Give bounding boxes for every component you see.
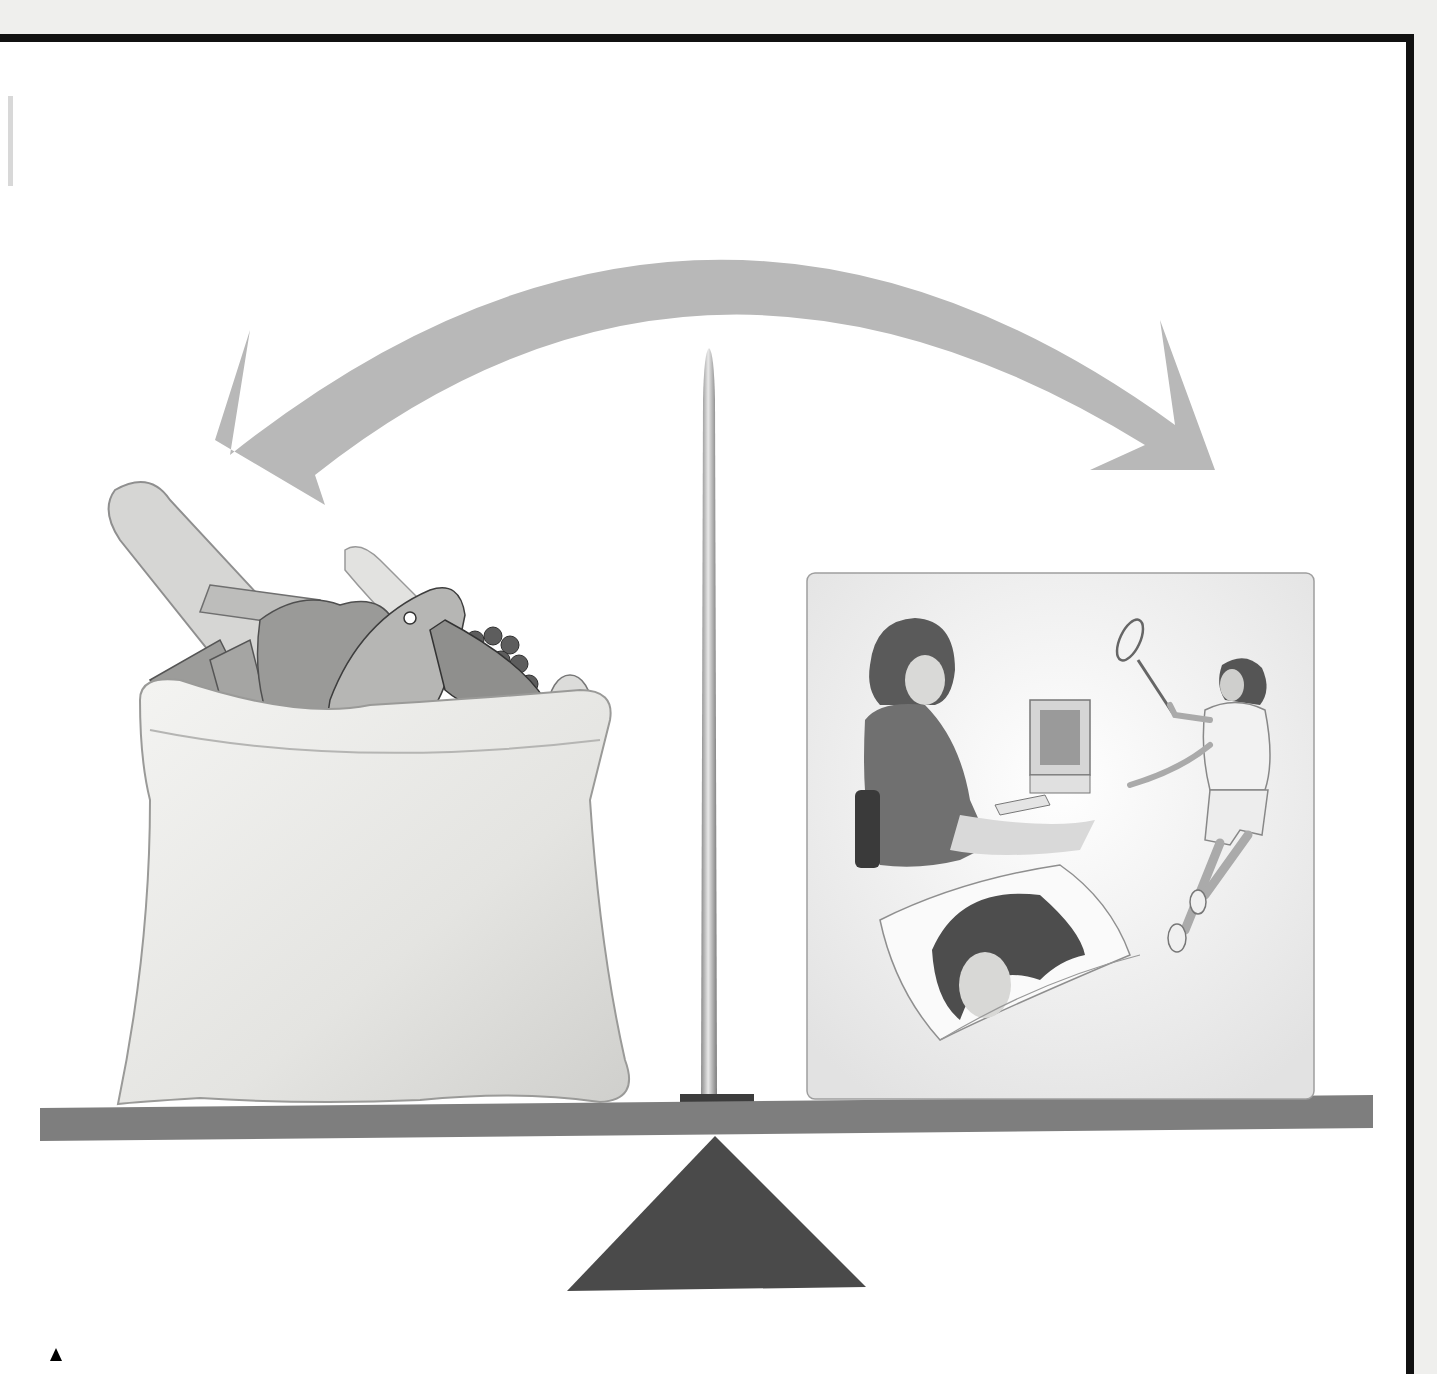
food-sack: [109, 482, 630, 1104]
footer-triangle-marker: [50, 1348, 62, 1361]
fulcrum-triangle: [567, 1136, 866, 1291]
activities-panel: [807, 573, 1314, 1099]
balance-beam: [40, 1095, 1373, 1141]
balance-pointer: [680, 348, 754, 1104]
